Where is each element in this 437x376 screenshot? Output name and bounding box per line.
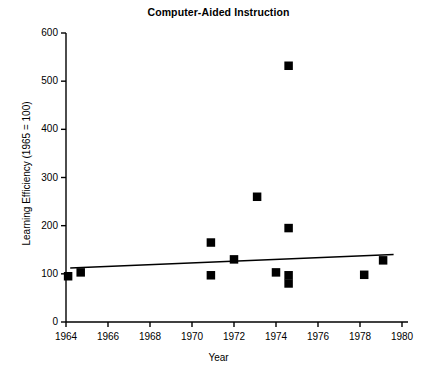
data-point-marker	[284, 279, 293, 288]
axis-ticks	[61, 33, 402, 327]
data-point-marker	[230, 255, 239, 264]
data-point-marker	[284, 224, 293, 233]
data-point-marker	[284, 271, 293, 280]
data-points	[64, 62, 388, 288]
data-point-marker	[64, 272, 73, 281]
plot-area	[0, 0, 437, 376]
data-point-marker	[379, 256, 388, 265]
axis-lines	[66, 33, 408, 322]
data-point-marker	[360, 271, 369, 280]
data-point-marker	[207, 271, 216, 280]
chart-figure: Computer-Aided Instruction Learning Effi…	[0, 0, 437, 376]
data-point-marker	[207, 238, 216, 247]
data-point-marker	[253, 193, 262, 202]
data-point-marker	[272, 268, 281, 277]
data-point-marker	[284, 62, 293, 71]
data-point-marker	[76, 268, 85, 277]
